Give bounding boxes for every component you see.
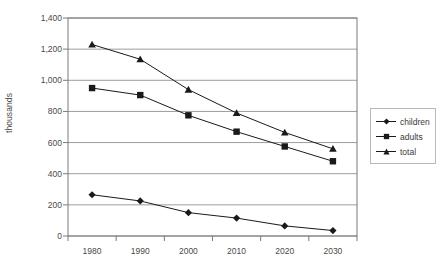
diamond-marker-icon [376, 116, 396, 128]
legend-label-adults: adults [400, 132, 423, 142]
legend-label-children: children [400, 117, 430, 127]
legend-item-children[interactable]: children [376, 114, 435, 129]
x-tick-label: 2000 [166, 246, 210, 256]
legend-label-total: total [400, 147, 416, 157]
legend-item-total[interactable]: total [376, 144, 435, 159]
triangle-marker-icon [376, 146, 396, 158]
legend-item-adults[interactable]: adults [376, 129, 435, 144]
x-tick-label: 2010 [215, 246, 259, 256]
line-chart: thousands 02004006008001,0001,2001,400 1… [0, 0, 448, 274]
chart-legend: children adults total [370, 108, 436, 164]
x-tick-label: 2020 [263, 246, 307, 256]
x-tick-label: 1990 [118, 246, 162, 256]
x-tick-label: 2030 [311, 246, 355, 256]
square-marker-icon [376, 131, 396, 143]
x-tick-label: 1980 [70, 246, 114, 256]
